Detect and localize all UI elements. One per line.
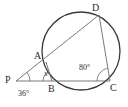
angle-label-p: 36° (18, 90, 29, 98)
angle-label-b: x (44, 70, 48, 78)
point-label-c: C (110, 83, 117, 93)
angle-label-c: 80° (79, 64, 90, 72)
chord-line-d-c (99, 15, 110, 81)
geometry-figure: P A B C D 36° x 80° (0, 0, 128, 107)
point-label-d: D (92, 3, 99, 13)
angle-arc-p (27, 72, 30, 81)
angle-arc-c (97, 68, 108, 81)
point-label-p: P (5, 75, 11, 85)
point-label-a: A (34, 51, 41, 61)
point-label-b: B (48, 84, 55, 94)
